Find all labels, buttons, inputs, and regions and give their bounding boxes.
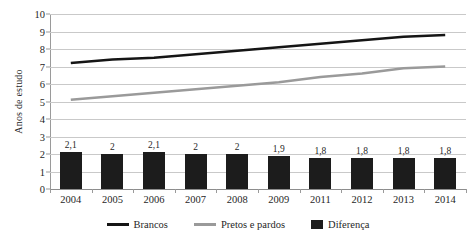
y-tick-label: 5 (40, 96, 45, 107)
x-tick-label-2007: 2007 (185, 194, 206, 205)
bar-value-label: 2 (193, 142, 198, 152)
x-tick-label-2012: 2012 (352, 194, 373, 205)
bar (434, 158, 456, 190)
x-tick-label-2013: 2013 (393, 194, 414, 205)
y-tick-label: 6 (40, 79, 45, 90)
bar-value-label: 2,1 (148, 140, 160, 150)
chart-container: Anos de estudo 012345678910 2,122,1221,9… (0, 0, 476, 243)
x-tick-mark (341, 189, 342, 193)
bar (185, 154, 207, 189)
x-tick-mark (258, 189, 259, 193)
x-tick-label-2005: 2005 (102, 194, 123, 205)
bar (101, 154, 123, 189)
x-tick-label-2006: 2006 (144, 194, 165, 205)
bar-value-label: 1,8 (439, 146, 451, 156)
bar (143, 152, 165, 189)
legend-label: Brancos (134, 219, 168, 230)
legend-label: Pretos e pardos (221, 219, 285, 230)
bar (309, 158, 331, 190)
y-tick-label: 4 (40, 114, 45, 125)
bar (351, 158, 373, 190)
legend-item-diferença[interactable]: Diferença (311, 219, 369, 230)
legend-item-pretos-e-pardos[interactable]: Pretos e pardos (194, 219, 285, 230)
x-tick-mark (175, 189, 176, 193)
y-axis-title: Anos de estudo (13, 32, 24, 172)
bar-value-label: 1,8 (398, 146, 410, 156)
x-tick-mark (383, 189, 384, 193)
bar-value-label: 2 (110, 142, 115, 152)
x-tick-label-2009: 2009 (268, 194, 289, 205)
y-tick-label: 10 (35, 9, 46, 20)
bar-value-label: 1,8 (356, 146, 368, 156)
y-tick-label: 7 (40, 61, 45, 72)
bar (268, 156, 290, 189)
x-tick-mark (92, 189, 93, 193)
y-tick-label: 8 (40, 44, 45, 55)
bar (226, 154, 248, 189)
x-tick-mark (133, 189, 134, 193)
x-tick-mark (466, 189, 467, 193)
bar-series-diferenca: 2,122,1221,91,81,81,81,8 (50, 14, 466, 189)
legend-box-swatch-icon (311, 220, 323, 229)
legend-item-brancos[interactable]: Brancos (107, 219, 168, 230)
legend-line-swatch-icon (107, 223, 129, 226)
x-tick-label-2014: 2014 (435, 194, 456, 205)
y-tick-label: 2 (40, 149, 45, 160)
bar-value-label: 2 (235, 142, 240, 152)
bar (60, 152, 82, 189)
x-tick-label-2008: 2008 (227, 194, 248, 205)
chart-legend: BrancosPretos e pardosDiferença (0, 219, 476, 230)
plot-area: 012345678910 2,122,1221,91,81,81,81,8 20… (50, 14, 466, 189)
x-tick-mark (424, 189, 425, 193)
y-tick-label: 3 (40, 131, 45, 142)
x-tick-mark (50, 189, 51, 193)
bar (393, 158, 415, 190)
bar-value-label: 1,9 (273, 144, 285, 154)
y-tick-label: 9 (40, 26, 45, 37)
bar-value-label: 2,1 (65, 140, 77, 150)
x-tick-mark (300, 189, 301, 193)
x-tick-label-2011: 2011 (310, 194, 331, 205)
x-tick-mark (216, 189, 217, 193)
bar-value-label: 1,8 (314, 146, 326, 156)
legend-label: Diferença (328, 219, 369, 230)
y-tick-label: 0 (40, 184, 45, 195)
y-tick-label: 1 (40, 166, 45, 177)
legend-line-swatch-icon (194, 223, 216, 226)
x-tick-label-2004: 2004 (60, 194, 81, 205)
